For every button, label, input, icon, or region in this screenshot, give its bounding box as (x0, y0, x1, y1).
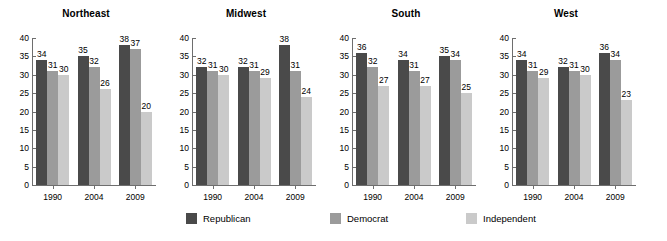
panel-row: Northeast4035302520151050199034313020043… (0, 0, 667, 205)
y-tick-label-wrap: 15 (326, 126, 349, 134)
y-tick-label: 15 (327, 126, 349, 134)
y-tick-label: 0 (327, 181, 349, 189)
y-tick-label: 30 (7, 71, 29, 79)
y-tick-label: 40 (327, 34, 349, 42)
bar-rep (398, 60, 409, 185)
chart-figure: Northeast4035302520151050199034313020043… (0, 0, 667, 241)
bar-value-label: 29 (534, 68, 554, 77)
y-tick-label-wrap: 25 (6, 89, 29, 97)
y-tick-label-wrap: 10 (326, 144, 349, 152)
bar-value-label: 32 (84, 57, 104, 66)
x-tick-mark (615, 185, 616, 189)
bar-dem (207, 71, 218, 185)
y-tick-mark (512, 185, 516, 186)
bar-ind (621, 100, 632, 185)
y-tick-label: 15 (167, 126, 189, 134)
bar-dem (527, 71, 538, 185)
y-tick-label: 15 (7, 126, 29, 134)
bar-rep (119, 45, 130, 185)
plot-area: 4035302520151050199036322720043431272009… (326, 0, 486, 205)
y-tick-mark (32, 38, 36, 39)
y-tick-label: 5 (167, 163, 189, 171)
y-tick-label: 10 (487, 144, 509, 152)
bar-value-label: 30 (575, 65, 595, 74)
chart-legend: RepublicanDemocratIndependent (0, 206, 667, 232)
legend-item-rep[interactable]: Republican (186, 211, 251, 225)
y-tick-mark (192, 185, 196, 186)
y-tick-label: 5 (487, 163, 509, 171)
x-tick-mark (213, 185, 214, 189)
y-tick-label: 20 (7, 108, 29, 116)
y-tick-label-wrap: 35 (326, 52, 349, 60)
y-tick-label: 40 (487, 34, 509, 42)
bar-rep (599, 53, 610, 185)
chart-panel-south: South40353025201510501990363227200434312… (326, 0, 486, 205)
x-tick-label: 2004 (552, 192, 596, 202)
bar-value-label: 30 (54, 65, 74, 74)
y-tick-label: 25 (7, 89, 29, 97)
x-tick-label: 2004 (72, 192, 116, 202)
bar-dem (409, 71, 420, 185)
y-tick-label-wrap: 0 (326, 181, 349, 189)
y-tick-label-wrap: 5 (166, 163, 189, 171)
y-tick-label: 35 (487, 52, 509, 60)
y-tick-label-wrap: 20 (486, 108, 509, 116)
y-tick-label-wrap: 0 (166, 181, 189, 189)
bar-ind (420, 86, 431, 185)
y-tick-mark (32, 185, 36, 186)
x-tick-label: 1990 (31, 192, 75, 202)
y-tick-mark (512, 38, 516, 39)
y-tick-label-wrap: 35 (166, 52, 189, 60)
y-tick-label: 10 (167, 144, 189, 152)
bar-rep (78, 56, 89, 185)
x-tick-mark (295, 185, 296, 189)
y-tick-label: 10 (7, 144, 29, 152)
bar-ind (301, 97, 312, 185)
bar-ind (461, 93, 472, 185)
y-tick-label: 25 (487, 89, 509, 97)
bar-rep (36, 60, 47, 185)
bar-ind (218, 75, 229, 185)
legend-item-ind[interactable]: Independent (466, 211, 536, 225)
y-tick-label: 20 (487, 108, 509, 116)
y-tick-label: 35 (167, 52, 189, 60)
y-tick-label-wrap: 5 (6, 163, 29, 171)
y-tick-label-wrap: 0 (6, 181, 29, 189)
legend-label: Republican (203, 213, 251, 224)
x-tick-label: 2004 (232, 192, 276, 202)
y-tick-label-wrap: 15 (486, 126, 509, 134)
y-tick-label: 0 (487, 181, 509, 189)
bar-ind (378, 86, 389, 185)
y-tick-label-wrap: 20 (326, 108, 349, 116)
y-tick-label-wrap: 10 (6, 144, 29, 152)
y-tick-label-wrap: 20 (6, 108, 29, 116)
bar-value-label: 24 (296, 87, 316, 96)
bar-value-label: 34 (393, 50, 413, 59)
bar-value-label: 27 (415, 76, 435, 85)
y-tick-label-wrap: 30 (6, 71, 29, 79)
y-tick-label: 30 (327, 71, 349, 79)
legend-swatch-ind (466, 213, 477, 224)
x-tick-mark (414, 185, 415, 189)
bar-rep (238, 67, 249, 185)
x-tick-mark (373, 185, 374, 189)
y-tick-label: 20 (327, 108, 349, 116)
bar-value-label: 29 (255, 68, 275, 77)
legend-item-dem[interactable]: Democrat (330, 211, 388, 225)
y-tick-mark (352, 185, 356, 186)
x-tick-label: 2009 (593, 192, 637, 202)
chart-panel-west: West403530252015105019903431292004323130… (486, 0, 646, 205)
bar-rep (196, 67, 207, 185)
bar-value-label: 34 (512, 50, 532, 59)
y-tick-label-wrap: 25 (486, 89, 509, 97)
y-tick-label-wrap: 0 (486, 181, 509, 189)
x-tick-label: 2009 (273, 192, 317, 202)
x-tick-label: 1990 (511, 192, 555, 202)
y-tick-label-wrap: 15 (6, 126, 29, 134)
y-tick-label: 5 (327, 163, 349, 171)
x-tick-mark (53, 185, 54, 189)
y-tick-label: 40 (167, 34, 189, 42)
bar-ind (580, 75, 591, 185)
x-tick-label: 1990 (191, 192, 235, 202)
y-tick-label: 15 (487, 126, 509, 134)
